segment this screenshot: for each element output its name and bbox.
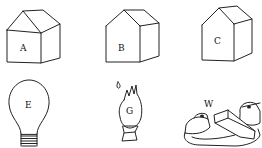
house-b: B [104, 8, 164, 64]
house-c-drawing: C [199, 5, 259, 63]
house-a-drawing: A [4, 8, 66, 64]
label-c: C [214, 36, 221, 46]
label-e: E [25, 100, 32, 110]
gas-flame-drawing: G [114, 80, 150, 146]
house-c: C [199, 5, 259, 63]
label-a: A [19, 43, 27, 53]
label-b: B [118, 43, 125, 53]
switch-drawing: W [180, 95, 262, 148]
gas-flame: G [114, 80, 150, 146]
house-b-drawing: B [104, 8, 164, 64]
light-bulb-drawing: E [4, 78, 54, 148]
light-bulb: E [4, 78, 54, 148]
switch: W [180, 95, 262, 148]
label-w: W [204, 99, 214, 109]
house-a: A [4, 8, 66, 64]
label-g: G [126, 106, 133, 116]
